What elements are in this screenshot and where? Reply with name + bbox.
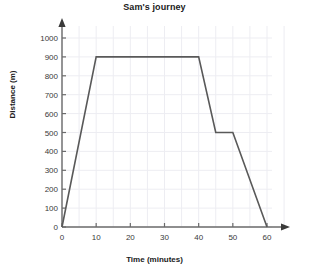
svg-text:800: 800 xyxy=(45,72,59,81)
svg-text:900: 900 xyxy=(45,53,59,62)
svg-text:20: 20 xyxy=(126,233,135,242)
svg-text:1000: 1000 xyxy=(40,34,58,43)
svg-text:30: 30 xyxy=(160,233,169,242)
axis-tick-labels: 0100200300400500600700800900100001020304… xyxy=(40,34,272,242)
svg-text:50: 50 xyxy=(228,233,237,242)
svg-text:600: 600 xyxy=(45,110,59,119)
svg-text:400: 400 xyxy=(45,147,59,156)
svg-text:500: 500 xyxy=(45,129,59,138)
svg-text:0: 0 xyxy=(54,223,59,232)
svg-text:700: 700 xyxy=(45,91,59,100)
svg-text:40: 40 xyxy=(194,233,203,242)
svg-text:200: 200 xyxy=(45,185,59,194)
svg-text:0: 0 xyxy=(60,233,65,242)
svg-text:10: 10 xyxy=(92,233,101,242)
axis-lines xyxy=(58,18,290,231)
svg-text:100: 100 xyxy=(45,204,59,213)
chart-container: Sam's journey Distance (m) Time (minutes… xyxy=(0,0,309,274)
plot-area: 0100200300400500600700800900100001020304… xyxy=(0,0,309,274)
svg-text:60: 60 xyxy=(263,233,272,242)
svg-text:300: 300 xyxy=(45,166,59,175)
